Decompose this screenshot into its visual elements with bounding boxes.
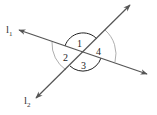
- intersecting-lines-diagram: l1 l2 1 2 3 4: [0, 0, 157, 115]
- angle-2-label: 2: [63, 52, 68, 63]
- angle-3-label: 3: [81, 60, 86, 71]
- line-l2-label: l2: [24, 94, 31, 109]
- line-l1-label: l1: [6, 23, 13, 38]
- angle-4-arc: [105, 30, 116, 62]
- angle-1-label: 1: [77, 38, 82, 49]
- angle-4-label: 4: [96, 46, 101, 57]
- diagram-canvas: l1 l2 1 2 3 4: [0, 0, 157, 115]
